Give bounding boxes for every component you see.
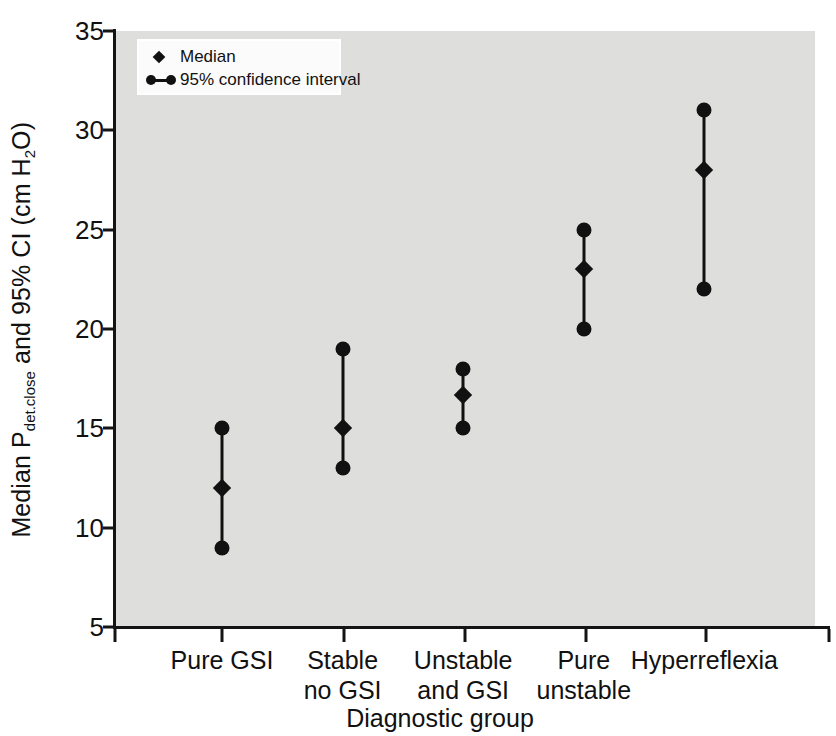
y-tick-mark — [103, 30, 115, 33]
confidence-interval-upper-dot — [335, 341, 350, 356]
y-tick-label: 15 — [48, 415, 104, 441]
x-tick-mark — [464, 629, 467, 642]
confidence-interval-lower-dot — [215, 540, 230, 555]
y-axis-title-subscript: det.close — [21, 371, 38, 431]
confidence-interval-upper-dot — [215, 421, 230, 436]
y-tick-label: 10 — [48, 515, 104, 541]
y-axis-title: Median Pdet.close and 95% CI (cm H2O) — [0, 0, 46, 660]
confidence-interval-line — [582, 230, 585, 329]
legend-item-ci: 95% confidence interval — [146, 68, 332, 91]
x-tick-label: Pureunstable — [537, 645, 632, 705]
y-tick-mark — [103, 526, 115, 529]
y-tick-mark — [103, 228, 115, 231]
y-tick-mark — [103, 129, 115, 132]
x-axis-title: Diagnostic group — [0, 706, 836, 731]
legend: Median 95% confidence interval — [137, 39, 341, 95]
y-tick-label: 20 — [48, 316, 104, 342]
y-axis-title-part2: and 95% CI (cm H — [7, 158, 35, 371]
y-tick-label: 30 — [48, 117, 104, 143]
median-diamond-icon — [146, 47, 180, 67]
confidence-interval-lower-dot — [576, 322, 591, 337]
x-tick-label: Stableno GSI — [304, 645, 382, 705]
legend-label-ci: 95% confidence interval — [180, 71, 361, 88]
confidence-interval-lower-dot — [697, 282, 712, 297]
y-tick-mark — [103, 427, 115, 430]
x-tick-mark — [343, 629, 346, 642]
x-tick-mark — [114, 629, 117, 642]
y-tick-mark — [103, 328, 115, 331]
y-tick-label: 25 — [48, 217, 104, 243]
y-tick-label: 5 — [48, 614, 104, 640]
confidence-interval-line — [703, 110, 706, 289]
y-axis-title-subscript-2: 2 — [21, 150, 38, 158]
y-axis-title-part3: O) — [7, 122, 35, 150]
x-axis-title-text: Diagnostic group — [346, 706, 534, 731]
confidence-interval-upper-dot — [697, 103, 712, 118]
x-tick-mark — [705, 629, 708, 642]
confidence-interval-lower-dot — [456, 421, 471, 436]
confidence-interval-upper-dot — [576, 222, 591, 237]
confidence-interval-line — [341, 349, 344, 468]
legend-label-median: Median — [180, 48, 236, 65]
x-tick-label: Pure GSI — [171, 645, 274, 675]
y-tick-label: 35 — [48, 18, 104, 44]
x-tick-mark — [828, 629, 831, 642]
confidence-interval-lower-dot — [335, 461, 350, 476]
x-tick-label: Unstableand GSI — [414, 645, 513, 705]
confidence-interval-upper-dot — [456, 361, 471, 376]
x-tick-mark — [221, 629, 224, 642]
y-axis-title-part1: Median P — [7, 431, 35, 537]
y-axis-tick-labels: 3530252015105 — [46, 0, 104, 736]
x-tick-label: Hyperreflexia — [631, 645, 778, 675]
confidence-interval-icon — [146, 70, 180, 90]
legend-item-median: Median — [146, 45, 332, 68]
x-tick-mark — [585, 629, 588, 642]
chart-figure: Median Pdet.close and 95% CI (cm H2O) 35… — [0, 0, 836, 736]
